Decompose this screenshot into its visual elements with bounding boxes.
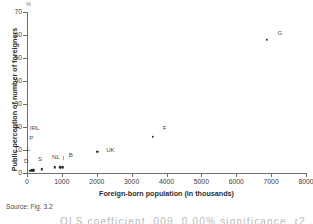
data-point-label: G: [278, 29, 283, 36]
data-point: [62, 166, 64, 168]
x-tick-label: 0: [25, 178, 29, 185]
x-tick-label: 5000: [194, 178, 209, 185]
y-tick: [23, 12, 27, 13]
x-tick: [27, 173, 28, 177]
x-tick-label: 4000: [159, 178, 174, 185]
x-tick: [167, 173, 168, 177]
x-tick: [132, 173, 133, 177]
y-tick: [23, 35, 27, 36]
scatter-chart-figure: % Public perception of number of foreign…: [0, 0, 313, 224]
percent-unit-marker: %: [26, 1, 31, 7]
x-tick: [236, 173, 237, 177]
data-point: [151, 135, 153, 137]
data-point: [41, 168, 43, 170]
data-point: [266, 39, 268, 41]
y-tick: [23, 127, 27, 128]
x-tick-label: 8000: [298, 178, 313, 185]
x-tick: [271, 173, 272, 177]
data-point-label: IRL: [30, 123, 40, 130]
x-tick: [201, 173, 202, 177]
data-point-label: F: [163, 123, 167, 130]
x-tick-label: 3000: [124, 178, 139, 185]
data-point-label: P: [29, 134, 33, 141]
x-tick: [97, 173, 98, 177]
data-point-label: B: [69, 151, 73, 158]
data-point-label: D: [24, 156, 28, 163]
data-point: [96, 151, 98, 153]
x-tick-label: 1000: [54, 178, 69, 185]
x-tick-label: 2000: [89, 178, 104, 185]
x-axis-title: Foreign-born population (in thousands): [27, 189, 306, 198]
data-point-label: UK: [106, 145, 115, 152]
y-tick: [23, 58, 27, 59]
x-tick: [62, 173, 63, 177]
data-point-label: S: [38, 155, 42, 162]
y-tick: [23, 104, 27, 105]
x-tick-label: 7000: [264, 178, 279, 185]
y-tick: [23, 81, 27, 82]
data-point-label: I: [63, 154, 65, 161]
x-tick: [306, 173, 307, 177]
data-point: [54, 166, 56, 168]
x-tick-label: 6000: [229, 178, 244, 185]
data-point-label: NL: [52, 153, 60, 160]
source-note: Source: Fig. 3.2: [6, 203, 53, 210]
data-point-label: L: [27, 145, 30, 152]
cutoff-caption-text: OLS coefficient .009, 0.00% significance…: [60, 216, 313, 224]
